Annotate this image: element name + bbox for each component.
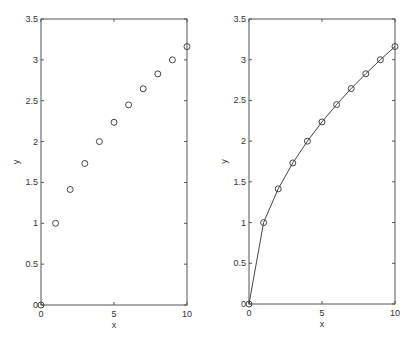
y-tick-label: 3.5 (233, 14, 246, 24)
axes-frame (249, 19, 395, 304)
x-tick-label: 10 (182, 309, 192, 319)
y-tick-label: 2 (33, 137, 38, 147)
y-tick-label: 1 (33, 218, 38, 228)
data-point-marker (67, 186, 73, 192)
y-tick-label: 0 (33, 300, 38, 310)
axes-frame (41, 19, 187, 305)
figure: 00.511.522.533.50510xy 00.511.522.533.50… (0, 0, 409, 343)
y-tick-label: 3 (33, 55, 38, 65)
data-point-marker (111, 119, 117, 125)
data-point-marker (155, 71, 161, 77)
data-point-marker (140, 86, 146, 92)
series-line (249, 47, 395, 304)
y-tick-label: 0.5 (233, 258, 246, 268)
right-line-plot: 00.511.522.533.50510xy (219, 14, 400, 329)
y-tick-label: 0.5 (25, 259, 38, 269)
y-tick-label: 3.5 (25, 14, 38, 24)
x-tick-label: 5 (111, 309, 116, 319)
data-point-marker (169, 57, 175, 63)
y-axis-label: y (11, 159, 21, 164)
y-tick-label: 0 (241, 299, 246, 309)
y-tick-label: 2.5 (25, 96, 38, 106)
data-point-marker (82, 160, 88, 166)
y-tick-label: 1.5 (25, 177, 38, 187)
x-tick-label: 5 (319, 308, 324, 318)
data-point-marker (126, 102, 132, 108)
left-scatter-plot: 00.511.522.533.50510xy (11, 14, 192, 330)
x-tick-label: 0 (246, 308, 251, 318)
data-point-marker (53, 220, 59, 226)
y-tick-label: 1 (241, 218, 246, 228)
y-tick-label: 3 (241, 55, 246, 65)
x-tick-label: 0 (38, 309, 43, 319)
y-tick-label: 1.5 (233, 177, 246, 187)
y-tick-label: 2 (241, 136, 246, 146)
x-axis-label: x (320, 319, 325, 329)
y-axis-label: y (219, 159, 229, 164)
x-axis-label: x (112, 320, 117, 330)
y-tick-label: 2.5 (233, 95, 246, 105)
x-tick-label: 10 (390, 308, 400, 318)
data-point-marker (96, 139, 102, 145)
